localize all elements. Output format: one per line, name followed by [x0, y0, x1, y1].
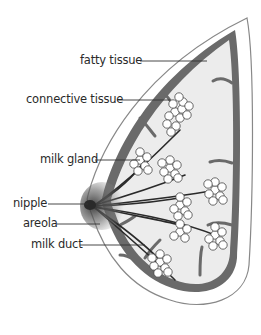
label-connective-tissue: connective tissue	[26, 93, 123, 106]
label-milk-duct: milk duct	[31, 238, 83, 251]
label-fatty-tissue: fatty tissue	[80, 54, 142, 67]
breast-anatomy-diagram	[0, 0, 261, 335]
nipple-shape	[84, 200, 96, 210]
label-nipple: nipple	[13, 197, 47, 210]
label-milk-gland: milk gland	[40, 153, 98, 166]
label-areola: areola	[23, 217, 58, 230]
